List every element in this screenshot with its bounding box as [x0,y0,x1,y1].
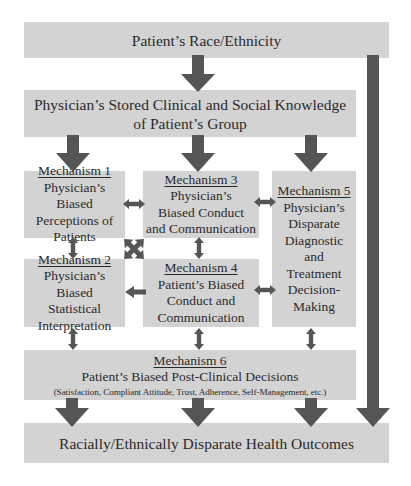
arrow-down-long-icon [356,55,390,427]
mechanism-5-line: Making [293,299,335,316]
mechanism-2-title: Mechanism 2 [38,252,111,269]
mechanism-6-title: Mechanism 6 [153,353,226,370]
mechanism-1-title: Mechanism 1 [38,163,111,180]
mechanism-4-line: Communication [158,310,245,327]
mechanism-5-line: and [304,249,324,266]
mechanism-3-title: Mechanism 3 [164,172,237,189]
mechanism-4-title: Mechanism 4 [164,260,237,277]
mechanism-5-line: Treatment [287,266,342,283]
mechanism-3-line: and Communication [146,221,256,238]
race-ethnicity-label: Patient’s Race/Ethnicity [132,31,281,50]
mechanism-3-line: Physician’s [170,188,232,205]
mechanism-4-line: Conduct and [167,293,236,310]
double-arrow-vertical-icon [194,328,204,350]
health-outcomes-box: Racially/Ethnically Disparate Health Out… [24,423,389,463]
double-arrow-horizontal-icon [123,199,145,209]
mechanism-2-line: Statistical [48,301,101,318]
mechanism-6-box: Mechanism 6 Patient’s Biased Post-Clinic… [24,350,356,400]
mechanism-6-line: Patient’s Biased Post-Clinical Decisions [81,369,298,386]
mechanism-2-line: Physician’s Biased [24,268,125,301]
stored-knowledge-line-1: Physician’s Stored Clinical and Social K… [34,95,346,114]
mechanism-3-box: Mechanism 3 Physician’s Biased Conduct a… [143,171,259,238]
mechanism-4-box: Mechanism 4 Patient’s Biased Conduct and… [143,259,259,327]
double-arrow-vertical-icon [194,237,204,259]
health-outcomes-label: Racially/Ethnically Disparate Health Out… [59,434,354,453]
mechanism-5-title: Mechanism 5 [277,183,350,200]
mechanism-4-line: Patient’s Biased [158,277,245,294]
stored-knowledge-box: Physician’s Stored Clinical and Social K… [24,90,356,137]
stored-knowledge-line-2: of Patient’s Group [133,114,247,133]
mechanism-1-box: Mechanism 1 Physician’s Biased Perceptio… [24,171,125,238]
mechanism-2-box: Mechanism 2 Physician’s Biased Statistic… [24,259,125,327]
mechanism-3-line: Biased Conduct [158,205,244,222]
double-arrow-vertical-icon [306,328,316,350]
arrow-down-icon [294,135,328,172]
mechanism-1-line: Patients [53,229,96,246]
arrow-down-icon [181,135,215,172]
mechanism-5-line: Disparate [288,216,340,233]
arrow-down-icon [181,55,215,92]
mechanism-5-box: Mechanism 5 Physician’s Disparate Diagno… [272,171,356,327]
mechanism-6-examples: (Satisfaction, Compliant Attitude, Trust… [54,386,327,398]
mechanism-5-line: Physician’s [283,200,345,217]
race-ethnicity-box: Patient’s Race/Ethnicity [24,22,389,58]
mechanism-5-line: Decision- [288,282,340,299]
mechanism-5-line: Diagnostic [285,233,344,250]
mechanism-2-line: Interpretation [38,318,111,335]
mechanism-1-line: Physician’s Biased [24,180,125,213]
mechanism-1-line: Perceptions of [36,213,114,230]
